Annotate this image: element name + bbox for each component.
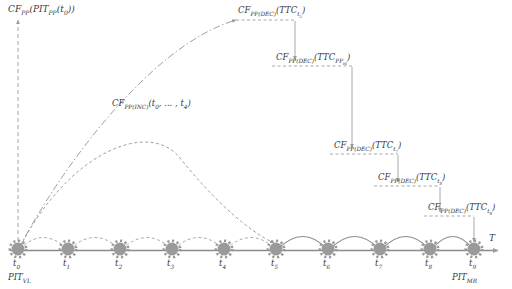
gear-marker (60, 241, 76, 257)
decrement-label-1: CFPP(DEC)(TTCt5) (238, 5, 305, 19)
decrement-label-3: CFPP(DEC)(TTCt7) (334, 140, 401, 154)
dec1-token: CF (238, 5, 250, 15)
initial-cf-label: CFPP(PITPP(t0)) (8, 4, 75, 16)
cf-arg-open: (PIT (29, 4, 48, 14)
pit-mr-sub: MR (467, 278, 477, 284)
gear-marker (10, 241, 26, 257)
tick-label-t9: t9 (469, 258, 476, 270)
dec4-subscript: PP(DEC) (390, 178, 416, 184)
tick-label-t6: t6 (323, 258, 330, 270)
diagram-vector-layer (0, 0, 512, 289)
dec3-subscript: PP(DEC) (346, 146, 372, 152)
gear-marker (216, 241, 232, 257)
cf-arg-close: )) (68, 4, 75, 14)
tick-sub: 0 (16, 264, 20, 270)
gear-marker (268, 241, 284, 257)
tick-label-t1: t1 (63, 258, 70, 270)
cf-token: CF (8, 4, 21, 14)
diagram-canvas: CFPP(PITPP(t0)) CFPP(INC)(t0, ... , t4) … (0, 0, 512, 289)
dec2-subscript: PP(DEC) (288, 58, 314, 64)
tick-label-t7: t7 (375, 258, 382, 270)
tick-sub: 9 (472, 264, 476, 270)
pit-vl-sub: VL (23, 278, 31, 284)
decrement-label-5: CFPP(DEC)(TTCt9) (428, 202, 495, 216)
inc-token: CF (112, 98, 124, 108)
dec3-token: CF (334, 140, 346, 150)
arc-t5-t6 (278, 237, 327, 250)
timepoint-markers (10, 241, 482, 257)
increase-curve-label: CFPP(INC)(t0, ... , t4) (112, 98, 191, 110)
dec1-arg-close: ) (302, 5, 305, 15)
decrement-label-2: CFPP(DEC)(TTCPPt6) (276, 52, 350, 66)
dec3-arg: (TTC (372, 140, 393, 150)
dec2-arg: (TTC (314, 52, 335, 62)
tick-label-t0: t0 (13, 258, 20, 270)
tick-sub: 4 (222, 264, 226, 270)
tick-sub: 7 (378, 264, 382, 270)
dec1-arg: (TTC (276, 5, 297, 15)
gear-marker (112, 241, 128, 257)
decrement-label-4: CFPP(DEC)(TTCt8) (378, 172, 445, 186)
dec2-arg-close: ) (347, 52, 350, 62)
tick-sub: 8 (428, 264, 432, 270)
inc-arg-close: ) (188, 98, 191, 108)
arc-t2-t3 (122, 238, 171, 250)
dec5-token: CF (428, 202, 440, 212)
tick-sub: 2 (118, 264, 122, 270)
axis-label-T: T (489, 233, 495, 243)
pit-vl-label: PITVL (8, 272, 31, 284)
gear-marker (422, 241, 438, 257)
dec2-arg-sub: PPt6 (335, 58, 347, 64)
tick-label-t5: t5 (271, 258, 278, 270)
tick-sub: 3 (170, 264, 174, 270)
inc-arg-mid: , ... , t (159, 98, 184, 108)
dec1-subscript: PP(DEC) (250, 11, 276, 17)
dec4-arg: (TTC (416, 172, 437, 182)
inc-subscript: PP(INC) (124, 104, 148, 110)
tick-sub: 6 (326, 264, 330, 270)
gear-marker (164, 241, 180, 257)
pit-mr-label: PITMR (452, 272, 477, 284)
dec4-token: CF (378, 172, 390, 182)
cf-arg-time: (t (57, 4, 64, 14)
dec5-arg-close: ) (492, 202, 495, 212)
dec3-arg-close: ) (398, 140, 401, 150)
pit-vl-base: PIT (8, 272, 23, 282)
cf-arg-sub: PP (49, 9, 57, 16)
dec5-arg: (TTC (466, 202, 487, 212)
increase-curve (19, 20, 236, 248)
gear-marker (372, 241, 388, 257)
dec2-arg-sub-base: PP (335, 58, 343, 64)
dec4-arg-close: ) (442, 172, 445, 182)
tick-label-t4: t4 (219, 258, 226, 270)
dec5-subscript: PP(DEC) (440, 208, 466, 214)
pit-mr-base: PIT (452, 272, 467, 282)
tick-sub: 5 (274, 264, 278, 270)
arc-t6-t7 (330, 237, 379, 250)
tick-label-t3: t3 (167, 258, 174, 270)
dec2-token: CF (276, 52, 288, 62)
tick-label-t2: t2 (115, 258, 122, 270)
arc-t3-t4 (174, 238, 223, 250)
tick-sub: 1 (66, 264, 70, 270)
gear-marker (320, 241, 336, 257)
tick-label-t8: t8 (425, 258, 432, 270)
arc-t1-t2 (70, 238, 119, 250)
large-dashed-arc (20, 142, 274, 247)
